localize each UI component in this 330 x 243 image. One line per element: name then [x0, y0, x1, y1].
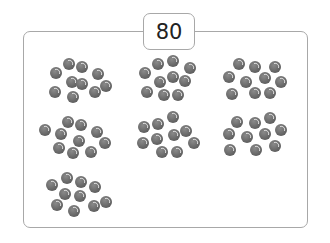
ball-group-1 — [49, 58, 112, 103]
ball — [61, 172, 73, 184]
ball — [50, 67, 62, 79]
ball — [67, 91, 79, 103]
ball — [249, 61, 261, 73]
ball — [63, 58, 75, 70]
ball — [154, 76, 166, 88]
ball-groups — [0, 0, 330, 243]
ball — [240, 76, 252, 88]
ball-group-5 — [137, 111, 200, 158]
ball — [53, 142, 65, 154]
ball — [223, 128, 235, 140]
ball — [139, 67, 151, 79]
ball — [264, 112, 276, 124]
ball — [75, 119, 87, 131]
ball — [275, 76, 287, 88]
ball — [224, 144, 236, 156]
ball — [91, 126, 103, 138]
ball — [167, 71, 179, 83]
ball — [231, 116, 243, 128]
ball — [152, 58, 164, 70]
ball — [141, 86, 153, 98]
ball — [151, 133, 163, 145]
ball — [138, 121, 150, 133]
ball — [68, 205, 80, 217]
ball — [226, 88, 238, 100]
ball — [89, 181, 101, 193]
ball — [249, 87, 261, 99]
ball-group-2 — [139, 55, 196, 101]
ball — [55, 128, 67, 140]
ball — [100, 196, 112, 208]
ball — [158, 89, 170, 101]
ball — [62, 116, 74, 128]
ball — [275, 124, 287, 136]
ball-group-4 — [39, 116, 111, 159]
ball — [67, 147, 79, 159]
ball-group-6 — [223, 112, 287, 156]
ball — [49, 86, 61, 98]
ball — [88, 200, 100, 212]
ball-group-3 — [223, 58, 287, 100]
ball — [85, 146, 97, 158]
ball — [152, 118, 164, 130]
ball — [76, 78, 88, 90]
ball — [76, 61, 88, 73]
ball — [137, 137, 149, 149]
ball — [241, 131, 253, 143]
ball — [171, 146, 183, 158]
ball — [223, 71, 235, 83]
ball — [75, 176, 87, 188]
ball — [99, 137, 111, 149]
ball — [167, 111, 179, 123]
ball — [51, 199, 63, 211]
ball — [59, 188, 71, 200]
ball — [89, 86, 101, 98]
ball — [167, 55, 179, 67]
ball — [74, 190, 86, 202]
ball — [233, 58, 245, 70]
ball — [250, 144, 262, 156]
ball-group-7 — [46, 172, 112, 217]
ball — [180, 125, 192, 137]
ball — [259, 128, 271, 140]
ball — [39, 124, 51, 136]
ball — [259, 72, 271, 84]
ball — [156, 146, 168, 158]
ball — [92, 68, 104, 80]
ball — [179, 75, 191, 87]
ball — [184, 62, 196, 74]
ball — [66, 76, 78, 88]
ball — [249, 117, 261, 129]
ball — [100, 80, 112, 92]
ball — [168, 129, 180, 141]
ball — [172, 89, 184, 101]
ball — [46, 179, 58, 191]
ball — [188, 137, 200, 149]
ball — [269, 140, 281, 152]
ball — [73, 135, 85, 147]
ball — [264, 87, 276, 99]
ball — [269, 61, 281, 73]
